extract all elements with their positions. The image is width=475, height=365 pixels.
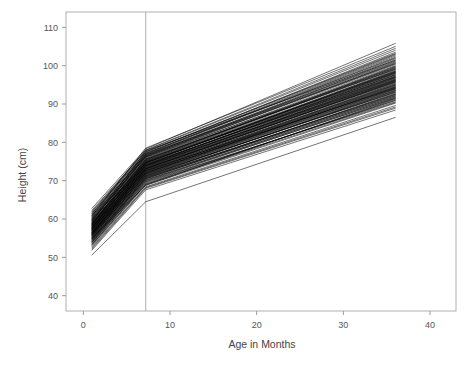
y-tick-label: 50 <box>48 253 58 263</box>
y-tick-label: 40 <box>48 291 58 301</box>
y-tick-label: 80 <box>48 138 58 148</box>
plot-background <box>0 0 475 365</box>
x-tick-label: 10 <box>165 320 175 330</box>
growth-trajectory-plot: 405060708090100110 010203040 Age in Mont… <box>0 0 475 365</box>
y-tick-label: 60 <box>48 214 58 224</box>
x-tick-label: 20 <box>252 320 262 330</box>
y-tick-label: 110 <box>44 23 58 33</box>
x-tick-label: 40 <box>425 320 435 330</box>
chart-figure: 405060708090100110 010203040 Age in Mont… <box>0 0 475 365</box>
x-axis-title: Age in Months <box>228 338 295 350</box>
y-tick-label: 100 <box>43 61 58 71</box>
y-tick-label: 70 <box>48 176 58 186</box>
y-tick-label: 90 <box>48 99 58 109</box>
y-axis-title: Height (cm) <box>16 148 28 202</box>
x-tick-label: 30 <box>338 320 348 330</box>
x-tick-label: 0 <box>81 320 86 330</box>
